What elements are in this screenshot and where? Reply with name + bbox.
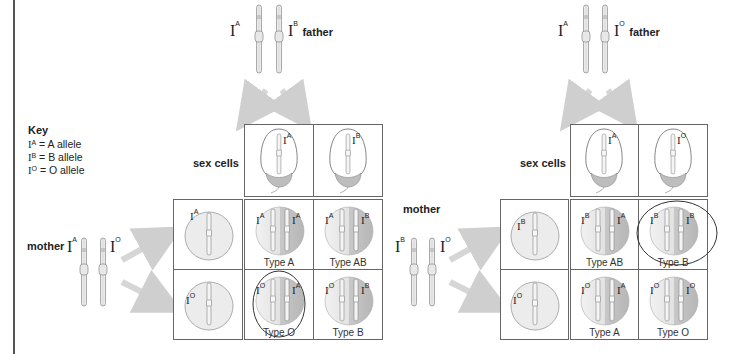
sperm-cell-box: IA	[570, 124, 639, 197]
sperm-cell-box: IA	[244, 124, 314, 197]
offspring-cell-circled: IO IA Type O	[244, 269, 314, 340]
mother-allele-1: IA	[67, 238, 77, 256]
sex-cells-label: sex cells	[193, 157, 239, 169]
father-allele-1: IA	[230, 22, 240, 40]
blood-type-label: Type O	[245, 327, 313, 338]
offspring-cell: IA IB Type AB	[313, 199, 383, 270]
mother-allele-2: IO	[110, 238, 121, 256]
blood-type-label: Type AB	[571, 257, 638, 268]
father-label: IB father	[288, 22, 333, 40]
offspring-cell: IO IB Type B	[313, 269, 383, 340]
blood-type-label: Type O	[639, 327, 707, 338]
egg-cell-box: IB	[500, 199, 569, 270]
father-label: IO father	[614, 22, 660, 40]
arrow	[250, 90, 266, 112]
blood-type-label: Type A	[571, 327, 638, 338]
blood-type-label: Type AB	[314, 257, 382, 268]
sex-cells-label: sex cells	[520, 157, 566, 169]
blood-type-label: Type B	[639, 257, 707, 268]
mother-allele-1: IB	[395, 238, 405, 256]
egg-cell-box: IO	[173, 269, 243, 340]
offspring-cell: IO IO Type O	[638, 269, 708, 340]
sperm-allele: IA	[283, 134, 291, 146]
egg-cell-box: IO	[500, 269, 569, 340]
sperm-cell-box: IB	[313, 124, 383, 197]
mother-label: mother	[27, 240, 64, 252]
sperm-allele: IB	[352, 134, 360, 146]
mother-label: mother	[403, 203, 440, 215]
father-allele-1: IA	[558, 22, 568, 40]
sperm-cell-box: IO	[638, 124, 708, 197]
offspring-cell: IA IA Type A	[244, 199, 314, 270]
offspring-cell: IB IA Type AB	[570, 199, 639, 270]
offspring-cell: IO IA Type A	[570, 269, 639, 340]
egg-allele: IO	[186, 294, 195, 306]
offspring-cell-circled: IB IB Type B	[638, 199, 708, 270]
egg-allele: IA	[190, 210, 198, 222]
blood-type-label: Type B	[314, 327, 382, 338]
mother-allele-2: IO	[440, 238, 451, 256]
blood-type-label: Type A	[245, 257, 313, 268]
egg-cell-box: IA	[173, 199, 243, 270]
